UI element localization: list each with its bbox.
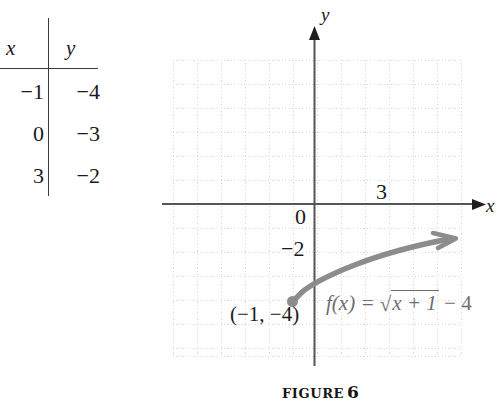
point-coordinate-label: (−1, −4) [230, 304, 299, 325]
table-row: −4 [54, 81, 100, 103]
coordinate-plane [150, 0, 501, 378]
function-tail: − 4 [444, 291, 472, 315]
x-axis [162, 199, 486, 210]
table-header-x: x [6, 38, 15, 59]
table-vertical-rule [48, 18, 49, 196]
table-horizontal-rule [0, 68, 98, 69]
x-tick-label-3: 3 [376, 181, 387, 203]
function-lhs: f(x) = [326, 291, 375, 315]
y-tick-label-minus-2: −2 [281, 238, 304, 260]
table-row: 0 [0, 123, 44, 145]
figure-caption-number: 6 [347, 382, 359, 402]
figure-caption-word: FIGURE [282, 386, 344, 401]
graph-panel: y x 3 0 −2 (−1, −4) f(x) = √x + 1 − 4 [150, 0, 501, 378]
radicand: x + 1 [391, 290, 439, 315]
table-row: −3 [54, 123, 100, 145]
table-row: −2 [54, 165, 100, 187]
origin-label: 0 [295, 206, 306, 228]
table-row: 3 [0, 165, 44, 187]
value-table: x y −1 −4 0 −3 3 −2 [0, 18, 140, 196]
y-axis [309, 26, 320, 366]
y-axis-label: y [321, 5, 329, 24]
x-axis-label: x [486, 196, 494, 215]
figure-caption: FIGURE6 [282, 382, 360, 402]
function-equation-label: f(x) = √x + 1 − 4 [326, 292, 472, 314]
table-row: −1 [0, 81, 44, 103]
table-header-y: y [66, 38, 75, 59]
radical-sign: √ [380, 292, 392, 316]
